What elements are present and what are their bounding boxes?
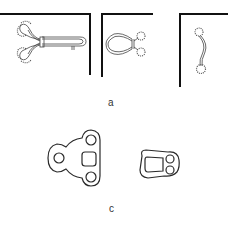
three-hole-bracket: [48, 130, 100, 186]
s-hook: [199, 36, 206, 66]
frame-3: [180, 14, 228, 87]
panel-label-a: a: [108, 97, 114, 108]
figure-canvas: [0, 0, 228, 227]
eye-loop: [106, 34, 138, 55]
frame-1: [0, 14, 90, 75]
long-hook-eye: [20, 24, 86, 60]
s-hook-stitches: [195, 28, 206, 74]
panel-label-c: c: [109, 203, 114, 214]
frame-2: [102, 14, 153, 77]
eye-loop-stitches: [137, 32, 145, 56]
two-hole-bracket: [140, 150, 179, 178]
